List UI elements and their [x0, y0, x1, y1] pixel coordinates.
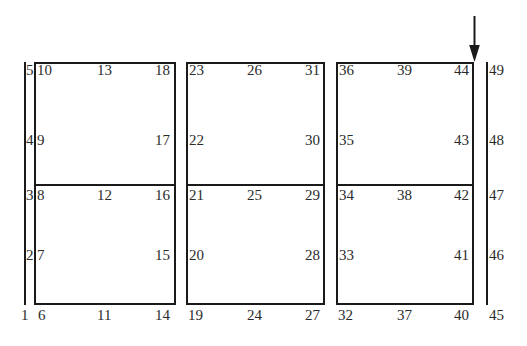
- node-label-44: 44: [454, 63, 469, 78]
- node-label-37: 37: [397, 308, 412, 323]
- node-label-28: 28: [305, 248, 320, 263]
- node-label-33: 33: [339, 248, 354, 263]
- node-label-2: 2: [26, 248, 34, 263]
- node-label-43: 43: [454, 133, 469, 148]
- node-label-23: 23: [189, 63, 204, 78]
- node-label-26: 26: [247, 63, 262, 78]
- node-label-19: 19: [188, 308, 203, 323]
- node-label-4: 4: [26, 133, 34, 148]
- node-label-48: 48: [489, 133, 504, 148]
- node-label-42: 42: [454, 188, 469, 203]
- node-label-41: 41: [454, 248, 469, 263]
- node-label-25: 25: [247, 188, 262, 203]
- node-label-18: 18: [155, 63, 170, 78]
- node-label-32: 32: [338, 308, 353, 323]
- node-label-7: 7: [37, 248, 45, 263]
- node-label-27: 27: [305, 308, 320, 323]
- node-label-20: 20: [189, 248, 204, 263]
- node-label-31: 31: [305, 63, 320, 78]
- node-label-8: 8: [37, 188, 45, 203]
- node-label-45: 45: [489, 308, 504, 323]
- node-label-15: 15: [155, 248, 170, 263]
- node-label-6: 6: [38, 308, 46, 323]
- node-label-47: 47: [489, 188, 504, 203]
- node-label-24: 24: [247, 308, 262, 323]
- node-label-29: 29: [305, 188, 320, 203]
- node-label-13: 13: [97, 63, 112, 78]
- node-label-39: 39: [397, 63, 412, 78]
- node-label-17: 17: [155, 133, 170, 148]
- node-label-49: 49: [489, 63, 504, 78]
- right-boundary-line: [486, 62, 488, 305]
- load-direction-arrow: [463, 14, 487, 64]
- node-label-5: 5: [26, 63, 34, 78]
- panel-2-divider: [186, 184, 325, 186]
- panel-3-divider: [336, 184, 474, 186]
- node-label-40: 40: [454, 308, 469, 323]
- diagram-canvas: 5432110987613121118171615142322212019262…: [0, 0, 527, 346]
- node-label-14: 14: [155, 308, 170, 323]
- node-label-16: 16: [155, 188, 170, 203]
- node-label-35: 35: [339, 133, 354, 148]
- node-label-22: 22: [189, 133, 204, 148]
- node-label-38: 38: [397, 188, 412, 203]
- node-label-12: 12: [97, 188, 112, 203]
- node-label-9: 9: [37, 133, 45, 148]
- node-label-21: 21: [189, 188, 204, 203]
- node-label-30: 30: [305, 133, 320, 148]
- node-label-1: 1: [21, 308, 29, 323]
- node-label-10: 10: [37, 63, 52, 78]
- node-label-46: 46: [489, 248, 504, 263]
- node-label-34: 34: [339, 188, 354, 203]
- panel-1-divider: [34, 184, 176, 186]
- node-label-11: 11: [97, 308, 111, 323]
- left-boundary-line: [24, 62, 26, 305]
- node-label-36: 36: [339, 63, 354, 78]
- node-label-3: 3: [26, 188, 34, 203]
